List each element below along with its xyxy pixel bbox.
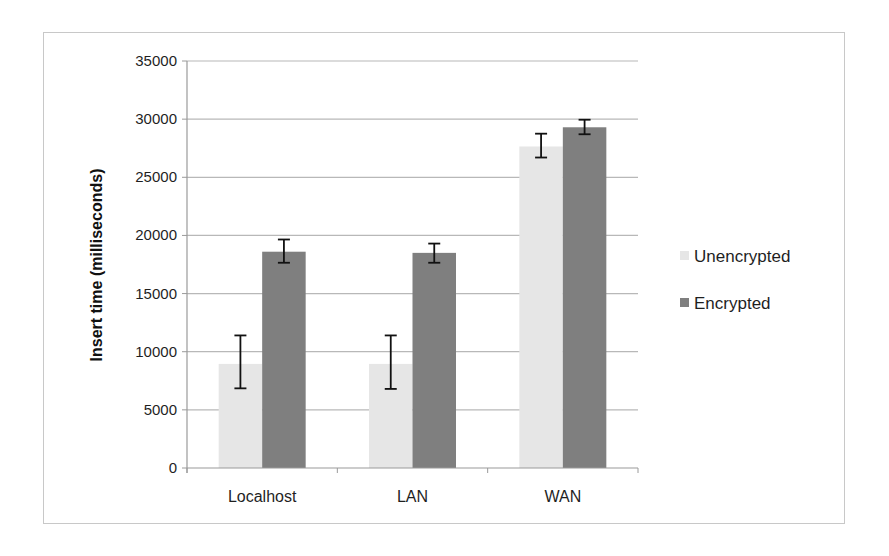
y-axis-title: Insert time (milliseconds): [88, 169, 105, 362]
y-tick-label: 15000: [135, 285, 177, 302]
legend: UnencryptedEncrypted: [680, 247, 790, 313]
bar-unencrypted-wan: [519, 146, 563, 468]
x-category-label: Localhost: [228, 488, 297, 505]
legend-swatch-encrypted: [680, 298, 689, 307]
legend-label-unencrypted: Unencrypted: [694, 247, 790, 266]
y-tick-label: 5000: [144, 401, 177, 418]
y-axis-ticks: 05000100001500020000250003000035000: [135, 52, 187, 476]
x-category-label: WAN: [544, 488, 581, 505]
bar-encrypted-localhost: [262, 252, 306, 468]
y-tick-label: 20000: [135, 226, 177, 243]
bar-encrypted-wan: [563, 127, 607, 468]
bar-chart: 05000100001500020000250003000035000 Loca…: [0, 0, 889, 556]
y-tick-label: 30000: [135, 110, 177, 127]
legend-label-encrypted: Encrypted: [694, 294, 771, 313]
y-tick-label: 25000: [135, 168, 177, 185]
bar-encrypted-lan: [413, 253, 457, 468]
y-tick-label: 10000: [135, 343, 177, 360]
y-tick-label: 0: [169, 459, 177, 476]
x-axis-labels: LocalhostLANWAN: [228, 488, 581, 505]
y-tick-label: 35000: [135, 52, 177, 69]
bars: [219, 127, 607, 468]
legend-swatch-unencrypted: [680, 251, 689, 260]
x-category-label: LAN: [397, 488, 428, 505]
